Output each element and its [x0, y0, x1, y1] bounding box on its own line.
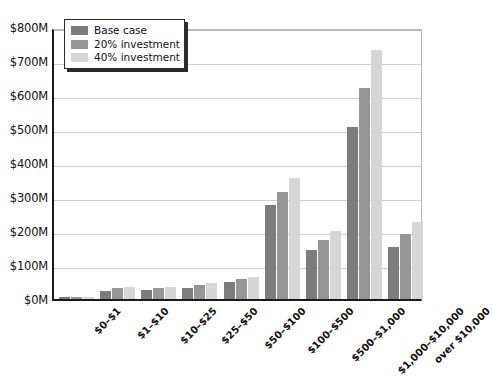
bar — [206, 283, 217, 299]
bar — [141, 290, 152, 299]
x-axis-tick-label: $25–$50 — [220, 306, 260, 346]
bar — [265, 205, 276, 299]
bar — [165, 287, 176, 299]
bar — [306, 250, 317, 299]
bar — [236, 279, 247, 299]
chart-legend: Base case20% investment40% investment — [64, 19, 185, 69]
legend-item-label: 20% investment — [94, 39, 180, 50]
x-axis-tick-label: $1–$10 — [135, 306, 170, 341]
x-axis-tick-label: $100–$500 — [306, 306, 356, 356]
bar — [277, 192, 288, 299]
y-axis-tick-label: $700M — [0, 57, 48, 69]
legend-swatch-icon — [71, 26, 88, 35]
bar — [400, 234, 411, 299]
y-axis-tick-label: $400M — [0, 159, 48, 171]
y-axis-tick-label: $800M — [0, 23, 48, 35]
bar — [112, 288, 123, 299]
bar — [289, 178, 300, 299]
y-axis-tick-label: $500M — [0, 125, 48, 137]
y-axis-tick-label: $200M — [0, 227, 48, 239]
bar — [153, 288, 164, 299]
bar-group — [265, 30, 300, 299]
legend-item-label: Base case — [94, 25, 147, 36]
bar — [248, 277, 259, 299]
bar — [83, 297, 94, 299]
x-axis-tick-label: $50–$100 — [263, 306, 308, 351]
bar — [388, 247, 399, 299]
y-axis-tick-label: $600M — [0, 91, 48, 103]
legend-item: 40% investment — [71, 51, 179, 65]
legend-item: 20% investment — [71, 38, 179, 52]
bar — [224, 282, 235, 299]
bar — [194, 285, 205, 299]
bar — [100, 291, 111, 300]
legend-item: Base case — [71, 24, 179, 38]
y-axis-tick-label: $0M — [0, 295, 48, 307]
x-axis-tick-label: $500–$1,000 — [350, 306, 408, 364]
bar — [371, 50, 382, 299]
bar — [330, 231, 341, 299]
bar — [347, 127, 358, 299]
bar — [124, 287, 135, 299]
legend-swatch-icon — [71, 40, 88, 49]
bar — [412, 222, 423, 299]
legend-item-label: 40% investment — [94, 52, 180, 63]
bar — [71, 297, 82, 299]
y-axis-tick-label: $100M — [0, 261, 48, 273]
bar — [182, 288, 193, 299]
bar-group — [388, 30, 423, 299]
bar-group — [224, 30, 259, 299]
bar-group — [347, 30, 382, 299]
x-axis-tick-label: $0–$1 — [92, 306, 122, 336]
bar-group — [306, 30, 341, 299]
bar — [359, 88, 370, 299]
x-axis-tick-label: $10–$25 — [178, 306, 218, 346]
y-axis-tick-label: $300M — [0, 193, 48, 205]
legend-swatch-icon — [71, 53, 88, 62]
bar — [59, 297, 70, 299]
bar — [318, 240, 329, 299]
